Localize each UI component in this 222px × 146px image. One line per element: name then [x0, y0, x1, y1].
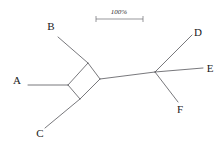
edge-F: [155, 72, 178, 102]
taxon-label-b: B: [47, 20, 54, 32]
box-edge-top-right: [88, 63, 100, 79]
scale-bar-label: 100%: [111, 8, 128, 16]
box-edge-right-bottom: [80, 79, 100, 99]
taxon-labels: A B C D E F: [13, 20, 214, 139]
reticulation-box: [68, 63, 100, 99]
box-edge-bottom-left: [68, 85, 80, 99]
scale-bar: 100%: [96, 8, 143, 22]
box-edge-left-top: [68, 63, 88, 85]
edge-E: [155, 68, 203, 72]
edge-D: [155, 35, 192, 72]
taxon-label-c: C: [36, 127, 43, 139]
taxon-label-a: A: [13, 74, 21, 86]
edge-B: [58, 37, 88, 63]
edge-internal: [100, 72, 155, 79]
taxon-label-d: D: [194, 26, 202, 38]
network-canvas: 100% A B C D E F: [0, 0, 222, 146]
split-network-diagram: 100% A B C D E F: [0, 0, 222, 146]
taxon-label-e: E: [207, 62, 214, 74]
taxon-label-f: F: [177, 103, 183, 115]
edge-C: [45, 99, 80, 128]
